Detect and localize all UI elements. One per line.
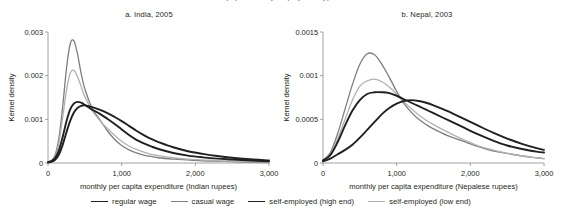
plot-india: 00.0010.0020.00301,0002,0003,000Kernel d… xyxy=(0,8,282,188)
y-axis-title: Kernel density xyxy=(282,73,291,121)
figure-kernel-density: population, by employment type a. India,… xyxy=(0,0,562,217)
x-tick-label: 1,000 xyxy=(387,169,406,178)
x-tick-label: 1,000 xyxy=(112,169,131,178)
legend-label: regular wage xyxy=(112,197,157,206)
x-tick-label: 0 xyxy=(46,169,50,178)
y-tick-label: 0.003 xyxy=(25,28,44,37)
legend-item: regular wage xyxy=(91,197,157,206)
x-tick-label: 3,000 xyxy=(535,169,554,178)
y-tick-label: 0.001 xyxy=(25,115,44,124)
legend-swatch-line-icon xyxy=(171,201,188,202)
y-tick-label: 0.0015 xyxy=(295,28,318,37)
series-line xyxy=(48,40,269,163)
y-tick-label: 0 xyxy=(314,159,318,168)
legend-swatch-line-icon xyxy=(91,201,108,202)
legend-label: self-employed (high end) xyxy=(269,197,354,206)
x-tick-label: 2,000 xyxy=(186,169,205,178)
series-line xyxy=(323,92,544,160)
x-axis-title: monthly per capita expenditure (Nepalese… xyxy=(349,182,518,191)
series-line xyxy=(323,100,544,161)
legend-label: casual wage xyxy=(192,197,235,206)
y-axis-title: Kernel density xyxy=(7,73,16,121)
x-tick-label: 2,000 xyxy=(461,169,480,178)
legend-swatch-line-icon xyxy=(368,201,385,202)
y-tick-label: 0.0005 xyxy=(295,115,318,124)
legend-item: casual wage xyxy=(171,197,235,206)
legend: regular wagecasual wageself-employed (hi… xyxy=(0,192,562,210)
y-tick-label: 0.002 xyxy=(25,71,44,80)
legend-item: self-employed (low end) xyxy=(368,197,471,206)
series-line xyxy=(48,102,269,162)
x-tick-label: 0 xyxy=(321,169,325,178)
panel-nepal: b. Nepal, 2003 00.00050.0010.001501,0002… xyxy=(280,8,562,188)
series-line xyxy=(48,105,269,162)
series-line xyxy=(323,53,544,160)
x-tick-label: 3,000 xyxy=(260,169,279,178)
cut-off-header-text: population, by employment type xyxy=(0,0,562,2)
series-line xyxy=(323,79,544,160)
panel-india: a. India, 2005 00.0010.0020.00301,0002,0… xyxy=(0,8,282,188)
x-axis-title: monthly per capita expenditure (Indian r… xyxy=(80,182,238,191)
y-tick-label: 0 xyxy=(39,159,43,168)
legend-swatch-line-icon xyxy=(248,201,265,202)
y-tick-label: 0.001 xyxy=(300,71,319,80)
legend-label: self-employed (low end) xyxy=(389,197,471,206)
legend-item: self-employed (high end) xyxy=(248,197,354,206)
plot-nepal: 00.00050.0010.001501,0002,0003,000Kernel… xyxy=(280,8,562,188)
